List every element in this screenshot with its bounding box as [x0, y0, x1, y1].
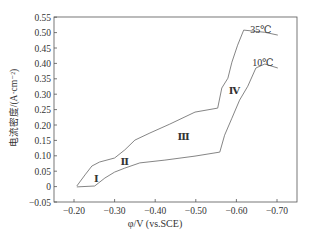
y-tick-label: 0.25 [34, 105, 51, 115]
x-axis-label: φ/V (vs.SCE) [128, 218, 182, 230]
y-tick-label: 0.20 [34, 121, 51, 131]
y-axis-label: 电流密度/(A·cm⁻²) [8, 69, 20, 147]
series-line-10c [77, 64, 278, 187]
x-tick-label: −0.70 [266, 206, 288, 216]
y-tick-label: 0.35 [34, 74, 51, 84]
x-tick-label: −0.50 [185, 206, 207, 216]
y-tick-label: 0.05 [34, 167, 51, 177]
region-label: Ⅲ [178, 131, 190, 142]
series-label: 35℃ [250, 24, 271, 35]
x-tick-label: −0.20 [63, 206, 85, 216]
y-tick-label: −0.05 [29, 198, 51, 208]
series-lines [77, 30, 278, 187]
series-line-35c [77, 30, 278, 186]
y-tick-label: 0 [46, 182, 51, 192]
region-label: Ⅰ [94, 173, 99, 184]
y-tick-label: 0.10 [34, 151, 51, 161]
y-axis: −0.0500.050.100.150.200.250.300.350.400.… [29, 13, 57, 208]
chart-canvas: −0.0500.050.100.150.200.250.300.350.400.… [0, 0, 309, 242]
y-tick-label: 0.15 [34, 136, 51, 146]
y-tick-label: 0.30 [34, 90, 51, 100]
region-label: Ⅳ [229, 85, 241, 96]
annotations: ⅠⅡⅢⅣ35℃10℃ [94, 24, 273, 184]
y-tick-label: 0.45 [34, 44, 51, 54]
y-tick-label: 0.55 [34, 13, 51, 23]
x-axis: −0.20−0.30−0.40−0.50−0.60−0.70 [63, 199, 288, 216]
plot-frame [54, 17, 297, 202]
x-tick-label: −0.30 [104, 206, 126, 216]
x-tick-label: −0.40 [144, 206, 166, 216]
polarization-chart: −0.0500.050.100.150.200.250.300.350.400.… [0, 0, 309, 242]
series-label: 10℃ [252, 57, 273, 68]
y-tick-label: 0.40 [34, 59, 51, 69]
y-tick-label: 0.50 [34, 28, 51, 38]
region-label: Ⅱ [121, 156, 129, 167]
x-tick-label: −0.60 [225, 206, 247, 216]
